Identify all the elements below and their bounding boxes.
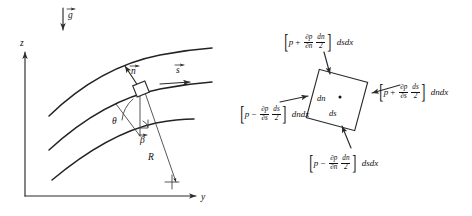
beta-label-group: β xyxy=(139,135,147,145)
radius-label: R xyxy=(147,152,154,162)
top-area: dsdx xyxy=(337,38,354,47)
right-p: p xyxy=(384,88,389,97)
right-operator: + xyxy=(390,88,395,97)
top-operator: + xyxy=(295,38,300,47)
bottom-partial-fraction: ∂p ∂n xyxy=(329,155,338,171)
top-p: p xyxy=(289,38,294,47)
right-partial-den: ∂s xyxy=(400,93,408,101)
bracket-left-icon: [ xyxy=(379,84,383,100)
left-force-arrow xyxy=(280,96,308,102)
element-center-dot xyxy=(339,96,342,99)
left-face-pressure-force-formula: [ p − ∂p ∂s ds 2 ] dndx xyxy=(239,106,309,122)
gravity-label: g xyxy=(68,10,73,20)
tangent-vector-s xyxy=(160,82,190,84)
tangent-label: s xyxy=(176,65,180,75)
element-dn-label: dn xyxy=(317,93,326,103)
z-axis-label: z xyxy=(19,38,24,48)
bottom-half-fraction: dn 2 xyxy=(341,155,350,171)
bottom-p: p xyxy=(314,159,319,168)
bracket-left-icon: [ xyxy=(240,106,244,122)
theta-angle-arc xyxy=(122,99,133,120)
top-half-den: 2 xyxy=(318,43,324,51)
bracket-right-icon: ] xyxy=(352,155,356,171)
radius-of-curvature-line xyxy=(142,84,176,182)
streamline-lower xyxy=(52,119,194,180)
bottom-face-pressure-force-formula: [ p − ∂p ∂n dn 2 ] dsdx xyxy=(308,155,378,171)
left-half-den: 2 xyxy=(274,115,280,123)
y-axis-label: y xyxy=(200,192,206,202)
left-partial-den: ∂s xyxy=(261,115,269,123)
tangent-label-group: s xyxy=(175,65,184,75)
left-partial-fraction: ∂p ∂s xyxy=(260,106,269,122)
fluid-element-square xyxy=(306,69,367,130)
beta-label: β xyxy=(139,135,145,145)
bracket-right-icon: ] xyxy=(421,84,425,100)
bottom-partial-den: ∂n xyxy=(329,164,338,172)
bottom-half-den: 2 xyxy=(343,164,349,172)
top-half-fraction: dn 2 xyxy=(316,34,325,50)
gravity-label-group: g xyxy=(67,9,75,20)
bottom-operator: − xyxy=(320,159,325,168)
fluid-element-small xyxy=(133,81,150,97)
right-half-den: 2 xyxy=(413,93,419,101)
left-p: p xyxy=(245,110,250,119)
normal-label: n xyxy=(131,66,136,76)
streamline-middle xyxy=(49,82,212,150)
right-area: dndx xyxy=(431,88,449,97)
streamline-coordinates-panel: z y g n s θ β R xyxy=(0,0,236,216)
right-partial-fraction: ∂p ∂s xyxy=(399,84,408,100)
top-partial-fraction: ∂p ∂n xyxy=(304,34,313,50)
bracket-left-icon: [ xyxy=(309,155,313,171)
normal-label-group: n xyxy=(130,66,139,76)
left-operator: − xyxy=(251,110,256,119)
element-ds-label: ds xyxy=(329,108,337,118)
right-half-fraction: ds 2 xyxy=(411,84,419,100)
top-face-pressure-force-formula: [ p + ∂p ∂n dn 2 ] dsdx xyxy=(283,34,353,50)
left-half-fraction: ds 2 xyxy=(272,106,280,122)
left-area: dndx xyxy=(292,110,310,119)
center-of-curvature-marker xyxy=(165,175,179,189)
bracket-right-icon: ] xyxy=(282,106,286,122)
figure-root: z y g n s θ β R xyxy=(0,0,472,216)
right-face-pressure-force-formula: [ p + ∂p ∂s ds 2 ] dndx xyxy=(378,84,448,100)
bottom-area: dsdx xyxy=(362,159,379,168)
top-partial-den: ∂n xyxy=(304,43,313,51)
theta-label: θ xyxy=(112,116,117,126)
bracket-right-icon: ] xyxy=(327,34,331,50)
bracket-left-icon: [ xyxy=(284,34,288,50)
